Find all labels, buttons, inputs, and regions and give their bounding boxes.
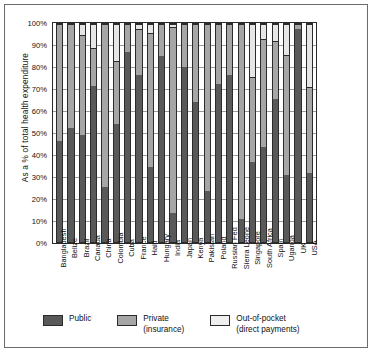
y-axis-tick-label: 20%: [5, 195, 47, 204]
x-label-slot: Belize: [64, 246, 75, 308]
bar-slot: [156, 23, 167, 243]
bar-segment: [57, 24, 62, 141]
bar-segment: [284, 24, 289, 55]
bar-segment: [261, 39, 266, 147]
stacked-bar[interactable]: [204, 23, 211, 243]
bar-slot: [179, 23, 190, 243]
bar-segment: [159, 56, 164, 242]
stacked-bar[interactable]: [260, 23, 267, 243]
stacked-bar[interactable]: [226, 23, 233, 243]
bar-segment: [136, 75, 141, 242]
y-axis-tick-label: 90%: [5, 41, 47, 50]
bar-segment: [125, 24, 130, 52]
bar-segment: [57, 141, 62, 242]
legend-item[interactable]: Private(insurance): [117, 314, 184, 335]
legend-item[interactable]: Out-of-pocket(direct payments): [210, 314, 299, 335]
bar-segment: [239, 24, 244, 219]
x-label-slot: South Africa: [259, 246, 270, 308]
x-label-slot: Cuba: [122, 246, 133, 308]
bar-slot: [236, 23, 247, 243]
stacked-bar-chart: As a % of total health expenditure 100%9…: [5, 5, 369, 349]
bar-segment: [250, 77, 255, 162]
x-label-slot: Hungary: [156, 246, 167, 308]
stacked-bar[interactable]: [147, 23, 154, 243]
y-axis-tick-label: 80%: [5, 63, 47, 72]
x-label-slot: Japan: [179, 246, 190, 308]
stacked-bar[interactable]: [181, 23, 188, 243]
x-label-slot: Bangladesh: [53, 246, 64, 308]
stacked-bar[interactable]: [192, 23, 199, 243]
stacked-bar[interactable]: [169, 23, 176, 243]
chart-frame: As a % of total health expenditure 100%9…: [4, 4, 368, 348]
bar-segment: [250, 24, 255, 77]
bar-segment: [68, 128, 73, 242]
bar-segment: [102, 187, 107, 242]
legend-label: Out-of-pocket(direct payments): [236, 314, 299, 335]
bar-slot: [304, 23, 315, 243]
stacked-bar[interactable]: [215, 23, 222, 243]
bar-segment: [193, 24, 198, 102]
bar-segment: [68, 24, 73, 128]
x-label-slot: Sierra Leone: [236, 246, 247, 308]
stacked-bar[interactable]: [56, 23, 63, 243]
bar-segment: [148, 24, 153, 33]
legend-swatch: [117, 315, 137, 326]
bar-slot: [190, 23, 201, 243]
bar-segment: [91, 86, 96, 242]
bar-segment: [182, 67, 187, 242]
bar-segment: [114, 124, 119, 242]
bar-slot: [167, 23, 178, 243]
bar-segment: [307, 173, 312, 242]
bar-slot: [99, 23, 110, 243]
stacked-bar[interactable]: [249, 23, 256, 243]
bar-slot: [133, 23, 144, 243]
bar-segment: [125, 52, 130, 242]
x-label-slot: Kenya: [190, 246, 201, 308]
y-axis-tick-label: 60%: [5, 107, 47, 116]
stacked-bar[interactable]: [113, 23, 120, 243]
bar-segment: [307, 87, 312, 173]
legend-swatch: [210, 315, 230, 326]
y-axis-tick-label: 30%: [5, 173, 47, 182]
x-label-slot: Brazil: [76, 246, 87, 308]
bar-slot: [65, 23, 76, 243]
legend-item[interactable]: Public: [43, 314, 91, 326]
bar-slot: [122, 23, 133, 243]
y-axis-tick-labels: 100%90%80%70%60%50%40%30%20%10%0%: [5, 22, 50, 246]
y-axis-tick-label: 100%: [5, 19, 47, 28]
bar-slot: [54, 23, 65, 243]
stacked-bar[interactable]: [238, 23, 245, 243]
stacked-bar[interactable]: [294, 23, 301, 243]
stacked-bar[interactable]: [101, 23, 108, 243]
bar-segment: [102, 24, 107, 187]
y-axis-tick-label: 50%: [5, 129, 47, 138]
stacked-bar[interactable]: [158, 23, 165, 243]
y-axis-tick-label: 40%: [5, 151, 47, 160]
bar-segment: [205, 24, 210, 191]
bar-segment: [148, 167, 153, 242]
stacked-bar[interactable]: [272, 23, 279, 243]
stacked-bar[interactable]: [306, 23, 313, 243]
stacked-bar[interactable]: [135, 23, 142, 243]
bar-slot: [258, 23, 269, 243]
stacked-bar[interactable]: [124, 23, 131, 243]
bar-segment: [91, 48, 96, 87]
stacked-bar[interactable]: [90, 23, 97, 243]
x-label-slot: UK: [293, 246, 304, 308]
bar-segment: [148, 33, 153, 168]
bar-segment: [227, 24, 232, 75]
y-axis-tick-label: 10%: [5, 217, 47, 226]
y-axis-tick-label: 0%: [5, 239, 47, 248]
chart-legend: PublicPrivate(insurance)Out-of-pocket(di…: [43, 314, 363, 344]
stacked-bar[interactable]: [283, 23, 290, 243]
bar-segment: [114, 61, 119, 125]
bar-segment: [295, 29, 300, 242]
stacked-bar[interactable]: [67, 23, 74, 243]
bar-segment: [136, 29, 141, 74]
bar-slot: [201, 23, 212, 243]
bar-slot: [213, 23, 224, 243]
x-axis-tick-labels: BangladeshBelizeBrazilCanadaChinaColombi…: [52, 246, 317, 308]
bar-segment: [80, 24, 85, 35]
stacked-bar[interactable]: [79, 23, 86, 243]
bar-segment: [216, 84, 221, 242]
